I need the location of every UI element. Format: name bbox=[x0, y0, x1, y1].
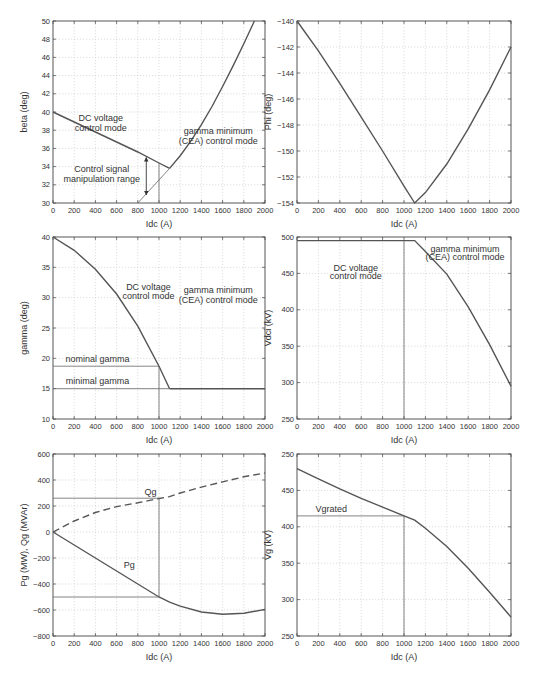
x-axis-label: Idc (A) bbox=[391, 219, 418, 229]
y-tick-label: 20 bbox=[42, 354, 50, 363]
x-tick-label: 1000 bbox=[396, 639, 413, 648]
x-tick-label: 1400 bbox=[438, 639, 455, 648]
x-tick-label: 200 bbox=[312, 639, 325, 648]
chart-beta: 0200400600800100012001400160018002000303… bbox=[19, 17, 273, 230]
annotation: minimal gamma bbox=[66, 376, 130, 386]
x-tick-label: 200 bbox=[68, 206, 81, 215]
y-tick-label: −800 bbox=[33, 632, 50, 641]
x-tick-label: 1600 bbox=[214, 206, 231, 215]
annotation: gamma minimum bbox=[184, 126, 253, 136]
x-tick-label: 1200 bbox=[172, 422, 189, 431]
annotation: control mode bbox=[122, 291, 174, 301]
annotation: nominal gamma bbox=[66, 354, 130, 364]
x-axis-label: Idc (A) bbox=[146, 435, 173, 445]
y-tick-label: 200 bbox=[37, 502, 50, 511]
series-beta-cea-extension bbox=[138, 168, 170, 203]
gridlines bbox=[297, 21, 511, 203]
x-tick-label: 0 bbox=[51, 206, 55, 215]
y-tick-label: 250 bbox=[281, 415, 294, 424]
y-tick-label: 10 bbox=[42, 415, 50, 424]
annotation: Qg bbox=[145, 487, 157, 497]
x-axis-ticks: 0200400600800100012001400160018002000 bbox=[51, 237, 273, 431]
y-tick-label: −154 bbox=[277, 199, 294, 208]
x-axis-label: Idc (A) bbox=[146, 219, 173, 229]
x-tick-label: 1200 bbox=[172, 206, 189, 215]
chart-vg: 0200400600800100012001400160018002000250… bbox=[263, 450, 519, 663]
x-tick-label: 200 bbox=[312, 206, 325, 215]
y-tick-label: 30 bbox=[42, 199, 50, 208]
x-tick-label: 2000 bbox=[257, 206, 274, 215]
y-tick-label: 500 bbox=[281, 233, 294, 242]
annotation: (CEA) control mode bbox=[179, 136, 258, 146]
x-tick-label: 2000 bbox=[257, 639, 274, 648]
x-tick-label: 1600 bbox=[460, 206, 477, 215]
x-tick-label: 400 bbox=[334, 639, 347, 648]
x-tick-label: 800 bbox=[376, 206, 389, 215]
x-axis-ticks: 0200400600800100012001400160018002000 bbox=[295, 237, 519, 431]
x-tick-label: 400 bbox=[89, 639, 102, 648]
x-tick-label: 200 bbox=[68, 639, 81, 648]
x-tick-label: 1200 bbox=[417, 422, 434, 431]
x-tick-label: 0 bbox=[295, 206, 299, 215]
y-tick-label: −148 bbox=[277, 121, 294, 130]
y-tick-label: 400 bbox=[281, 522, 294, 531]
y-tick-label: 34 bbox=[42, 162, 50, 171]
y-tick-label: 40 bbox=[42, 108, 50, 117]
annotation: control mode bbox=[330, 271, 382, 281]
y-tick-label: 0 bbox=[46, 528, 50, 537]
y-tick-label: 42 bbox=[42, 89, 50, 98]
x-tick-label: 1400 bbox=[193, 422, 210, 431]
x-tick-label: 400 bbox=[334, 422, 347, 431]
y-axis-label: Phi (deg) bbox=[263, 94, 273, 131]
x-tick-label: 1200 bbox=[172, 639, 189, 648]
chart-gamma: 0200400600800100012001400160018002000101… bbox=[19, 233, 273, 446]
y-axis-label: gamma (deg) bbox=[19, 301, 29, 355]
x-tick-label: 600 bbox=[355, 422, 368, 431]
y-tick-label: −200 bbox=[33, 554, 50, 563]
x-tick-label: 1200 bbox=[417, 206, 434, 215]
y-tick-label: 50 bbox=[42, 17, 50, 26]
x-tick-label: 400 bbox=[89, 206, 102, 215]
x-tick-label: 600 bbox=[110, 206, 123, 215]
y-axis-label: beta (deg) bbox=[19, 91, 29, 132]
annotation: Control signal bbox=[74, 164, 129, 174]
x-axis-label: Idc (A) bbox=[391, 435, 418, 445]
x-tick-label: 600 bbox=[355, 206, 368, 215]
x-tick-label: 1000 bbox=[151, 206, 168, 215]
y-tick-label: −600 bbox=[33, 606, 50, 615]
x-tick-label: 0 bbox=[295, 422, 299, 431]
x-tick-label: 1000 bbox=[396, 422, 413, 431]
x-tick-label: 200 bbox=[312, 422, 325, 431]
x-tick-label: 1600 bbox=[214, 639, 231, 648]
y-axis-label: Vg (kV) bbox=[263, 530, 273, 560]
y-tick-label: 400 bbox=[281, 305, 294, 314]
y-tick-label: 36 bbox=[42, 144, 50, 153]
x-axis-label: Idc (A) bbox=[146, 652, 173, 662]
x-tick-label: 2000 bbox=[503, 206, 520, 215]
chart-vdci: 0200400600800100012001400160018002000250… bbox=[263, 233, 519, 446]
series-beta-gamma-minimum bbox=[170, 21, 255, 168]
y-axis-label: Vdci (kV) bbox=[263, 310, 273, 347]
x-tick-label: 600 bbox=[355, 639, 368, 648]
x-tick-label: 1000 bbox=[396, 206, 413, 215]
y-tick-label: −150 bbox=[277, 147, 294, 156]
x-tick-label: 1600 bbox=[460, 422, 477, 431]
y-tick-label: −144 bbox=[277, 69, 294, 78]
x-tick-label: 2000 bbox=[503, 639, 520, 648]
x-tick-label: 1800 bbox=[235, 639, 252, 648]
x-tick-label: 1800 bbox=[481, 422, 498, 431]
x-tick-label: 0 bbox=[51, 422, 55, 431]
y-tick-label: 400 bbox=[37, 476, 50, 485]
x-tick-label: 1400 bbox=[438, 206, 455, 215]
y-tick-label: −142 bbox=[277, 43, 294, 52]
x-tick-label: 1800 bbox=[481, 639, 498, 648]
annotation: Pg bbox=[124, 560, 135, 570]
figure-grid: 0200400600800100012001400160018002000303… bbox=[0, 0, 537, 677]
x-tick-label: 800 bbox=[376, 639, 389, 648]
chart-phi: 0200400600800100012001400160018002000−15… bbox=[263, 17, 519, 230]
annotation: Vgrated bbox=[315, 504, 347, 514]
x-tick-label: 200 bbox=[68, 422, 81, 431]
annotation: control mode bbox=[75, 123, 127, 133]
x-tick-label: 1600 bbox=[214, 422, 231, 431]
x-tick-label: 800 bbox=[132, 206, 145, 215]
